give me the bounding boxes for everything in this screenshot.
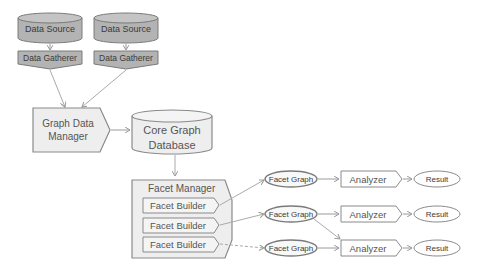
architecture-diagram: Data Source Data Source Data Gatherer Da… xyxy=(0,0,479,276)
db-label-line2: Database xyxy=(148,139,195,151)
pipeline-row-2: Facet Graph Analyzer Result xyxy=(265,206,460,239)
facet-graph-label: Facet Graph xyxy=(269,210,313,219)
result-label: Result xyxy=(426,210,449,219)
facet-builder-label: Facet Builder xyxy=(150,239,206,250)
data-source-1: Data Source xyxy=(18,13,82,43)
analyzer-label: Analyzer xyxy=(350,243,387,254)
data-gatherer-2: Data Gatherer xyxy=(94,51,158,69)
pipeline-row-3: Facet Graph Analyzer Result xyxy=(265,240,460,256)
gdm-label-line1: Graph Data xyxy=(42,118,94,129)
data-source-label: Data Source xyxy=(25,24,75,34)
db-label-line1: Core Graph xyxy=(143,124,200,136)
graph-data-manager: Graph Data Manager xyxy=(33,108,110,152)
gdm-label-line2: Manager xyxy=(48,131,88,142)
facet-builder-3: Facet Builder xyxy=(143,237,219,252)
analyzer-label: Analyzer xyxy=(350,174,387,185)
facet-builder-label: Facet Builder xyxy=(150,200,206,211)
result-label: Result xyxy=(426,244,449,253)
pipeline-row-1: Facet Graph Analyzer Result xyxy=(265,171,460,187)
facet-builder-2: Facet Builder xyxy=(143,218,219,233)
facet-builder-1: Facet Builder xyxy=(143,198,219,213)
result-label: Result xyxy=(426,175,449,184)
data-source-2: Data Source xyxy=(94,13,158,43)
data-source-label: Data Source xyxy=(101,24,151,34)
analyzer-label: Analyzer xyxy=(350,209,387,220)
data-gatherer-1: Data Gatherer xyxy=(18,51,82,69)
core-graph-database: Core Graph Database xyxy=(132,110,212,154)
facet-builder-label: Facet Builder xyxy=(150,220,206,231)
facet-graph-label: Facet Graph xyxy=(269,175,313,184)
data-gatherer-label: Data Gatherer xyxy=(99,53,153,63)
facet-graph-label: Facet Graph xyxy=(269,244,313,253)
facet-manager: Facet Manager Facet Builder Facet Builde… xyxy=(132,180,232,258)
facet-manager-title: Facet Manager xyxy=(148,183,216,194)
data-gatherer-label: Data Gatherer xyxy=(23,53,77,63)
